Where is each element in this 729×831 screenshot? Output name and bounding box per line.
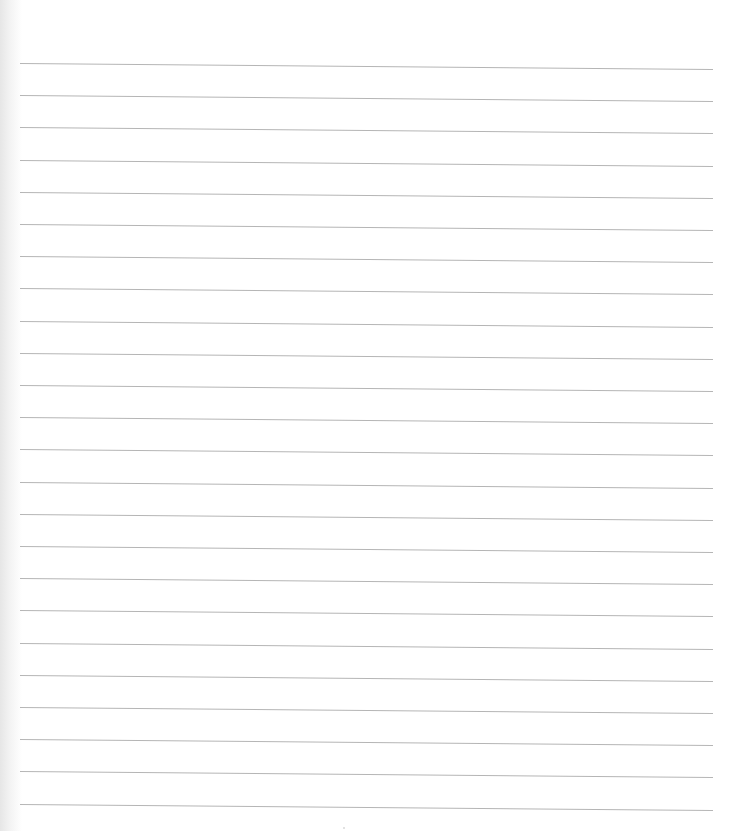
ruled-line (20, 63, 713, 70)
ruled-line (20, 192, 713, 199)
ruled-line (20, 707, 713, 714)
ruled-line (20, 224, 713, 231)
ruled-line (20, 482, 713, 489)
ruled-line (20, 804, 713, 811)
paper-speck (343, 827, 345, 829)
ruled-line (20, 739, 713, 746)
ruled-line (20, 449, 713, 456)
ruled-line (20, 578, 713, 585)
ruled-line (20, 256, 713, 263)
ruled-line (20, 160, 713, 167)
ruled-line (20, 127, 713, 134)
ruled-line (20, 675, 713, 682)
ruled-line (20, 771, 713, 778)
page-edge-shadow (0, 0, 22, 831)
ruled-line (20, 321, 713, 328)
ruled-line (20, 643, 713, 650)
ruled-line (20, 288, 713, 295)
ruled-line (20, 514, 713, 521)
lined-paper-sheet (0, 0, 729, 831)
ruled-line (20, 546, 713, 553)
ruled-line (20, 417, 713, 424)
ruled-line (20, 385, 713, 392)
ruled-line (20, 353, 713, 360)
ruled-line (20, 610, 713, 617)
ruled-line (20, 95, 713, 102)
